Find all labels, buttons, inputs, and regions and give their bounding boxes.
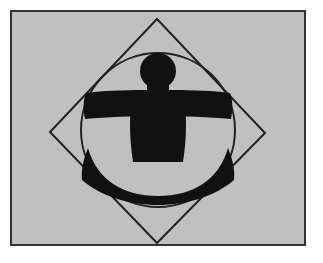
image-panel	[0, 0, 323, 263]
figure-illustration	[0, 0, 323, 263]
figure-torso	[130, 90, 186, 162]
